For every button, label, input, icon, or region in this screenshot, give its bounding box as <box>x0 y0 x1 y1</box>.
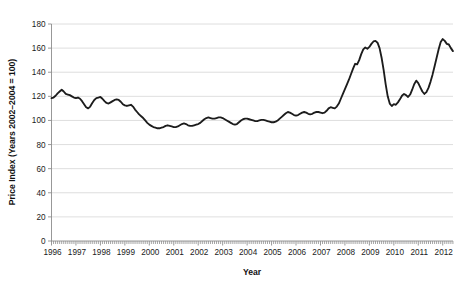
x-tick-label: 2011 <box>410 248 428 257</box>
x-tick-label: 2003 <box>215 248 234 257</box>
x-tick-label: 1997 <box>68 248 87 257</box>
x-tick-label: 2012 <box>435 248 454 257</box>
x-tick-label: 2004 <box>239 248 258 257</box>
chart-container: 020406080100120140160180 199619971998199… <box>0 0 474 283</box>
price-index-line <box>52 39 453 128</box>
x-minor-tick-marks-group <box>52 241 453 246</box>
x-tick-label: 1996 <box>43 248 62 257</box>
y-tick-marks-group <box>48 24 52 241</box>
x-tick-labels-group: 1996199719981999200020012002200320042005… <box>43 248 453 257</box>
x-tick-label: 2005 <box>263 248 282 257</box>
y-tick-label: 40 <box>36 189 46 198</box>
y-tick-label: 140 <box>32 68 46 77</box>
x-tick-label: 2010 <box>386 248 405 257</box>
y-tick-label: 0 <box>41 237 46 246</box>
x-tick-label: 2007 <box>312 248 331 257</box>
y-tick-labels-group: 020406080100120140160180 <box>32 20 46 246</box>
y-tick-label: 100 <box>32 116 46 125</box>
line-chart: 020406080100120140160180 199619971998199… <box>0 0 474 283</box>
x-tick-label: 2000 <box>141 248 160 257</box>
x-tick-label: 2006 <box>288 248 307 257</box>
y-tick-label: 120 <box>32 92 46 101</box>
x-tick-label: 2009 <box>361 248 380 257</box>
x-tick-label: 2001 <box>166 248 185 257</box>
x-tick-label: 2008 <box>337 248 356 257</box>
y-tick-label: 160 <box>32 44 46 53</box>
x-tick-label: 1998 <box>92 248 111 257</box>
y-tick-label: 180 <box>32 20 46 29</box>
y-tick-label: 80 <box>36 141 46 150</box>
x-axis-title: Year <box>243 267 262 277</box>
y-tick-label: 20 <box>36 213 46 222</box>
y-tick-label: 60 <box>36 165 46 174</box>
x-tick-label: 1999 <box>117 248 136 257</box>
y-axis-title: Price Index (Years 2002–2004 = 100) <box>7 59 17 206</box>
x-tick-label: 2002 <box>190 248 209 257</box>
